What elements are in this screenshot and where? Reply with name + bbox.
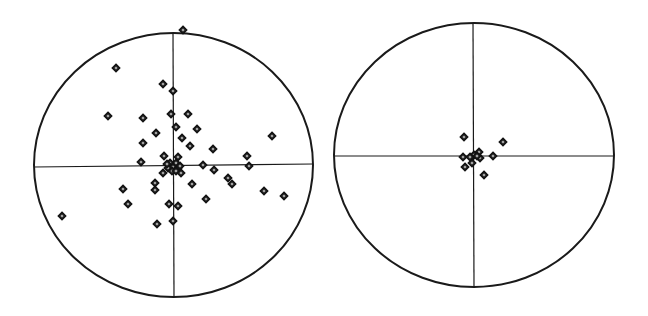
right-scatter-plot: [334, 23, 614, 287]
marker-center-dot: [246, 155, 248, 157]
marker-center-dot: [166, 163, 168, 165]
marker-center-dot: [155, 132, 157, 134]
marker-center-dot: [463, 136, 465, 138]
marker-center-dot: [175, 170, 177, 172]
marker-center-dot: [196, 128, 198, 130]
marker-center-dot: [213, 169, 215, 171]
marker-center-dot: [191, 183, 193, 185]
marker-center-dot: [175, 162, 177, 164]
dual-polar-scatter-figure: [0, 0, 648, 316]
marker-center-dot: [263, 190, 265, 192]
marker-center-dot: [154, 182, 156, 184]
marker-center-dot: [476, 155, 478, 157]
marker-center-dot: [170, 113, 172, 115]
marker-center-dot: [283, 195, 285, 197]
marker-center-dot: [179, 165, 181, 167]
left-scatter-plot: [34, 26, 313, 297]
marker-center-dot: [162, 83, 164, 85]
marker-center-dot: [142, 117, 144, 119]
marker-center-dot: [127, 203, 129, 205]
marker-center-dot: [189, 145, 191, 147]
marker-center-dot: [205, 198, 207, 200]
marker-center-dot: [168, 203, 170, 205]
marker-center-dot: [156, 223, 158, 225]
marker-center-dot: [177, 205, 179, 207]
marker-center-dot: [471, 162, 473, 164]
marker-center-dot: [492, 155, 494, 157]
marker-center-dot: [142, 142, 144, 144]
marker-center-dot: [469, 156, 471, 158]
marker-center-dot: [122, 188, 124, 190]
marker-center-dot: [172, 90, 174, 92]
marker-center-dot: [175, 126, 177, 128]
marker-center-dot: [462, 156, 464, 158]
marker-center-dot: [163, 155, 165, 157]
marker-center-dot: [140, 161, 142, 163]
marker-center-dot: [181, 137, 183, 139]
marker-center-dot: [227, 177, 229, 179]
marker-center-dot: [61, 215, 63, 217]
marker-center-dot: [172, 220, 174, 222]
marker-center-dot: [115, 67, 117, 69]
marker-center-dot: [271, 135, 273, 137]
marker-center-dot: [107, 115, 109, 117]
marker-center-dot: [202, 164, 204, 166]
marker-center-dot: [212, 148, 214, 150]
marker-center-dot: [182, 29, 184, 31]
marker-center-dot: [180, 172, 182, 174]
marker-center-dot: [187, 113, 189, 115]
marker-center-dot: [162, 172, 164, 174]
marker-center-dot: [177, 156, 179, 158]
marker-center-dot: [154, 189, 156, 191]
marker-center-dot: [248, 165, 250, 167]
marker-center-dot: [464, 166, 466, 168]
marker-center-dot: [502, 141, 504, 143]
marker-center-dot: [231, 183, 233, 185]
marker-center-dot: [483, 174, 485, 176]
